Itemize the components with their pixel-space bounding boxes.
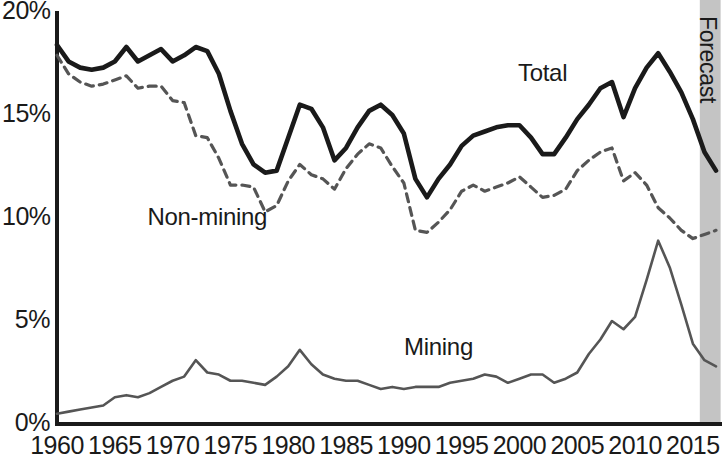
y-axis-tick-label: 5% [2,305,50,334]
chart-plot-area [0,0,722,462]
series-line-total [57,45,716,197]
series-line-mining [57,241,716,414]
x-axis-tick-label: 2015 [658,431,722,460]
chart-container: Forecast0%5%10%15%20%1960196519701975198… [0,0,722,462]
series-label-mining: Mining [404,333,473,361]
series-label-non-mining: Non-mining [147,203,267,231]
y-axis-tick-label: 20% [2,0,50,25]
y-axis-tick-label: 15% [2,99,50,128]
series-label-total: Total [518,59,567,87]
forecast-region-label: Forecast [694,16,721,103]
y-axis-tick-label: 10% [2,202,50,231]
